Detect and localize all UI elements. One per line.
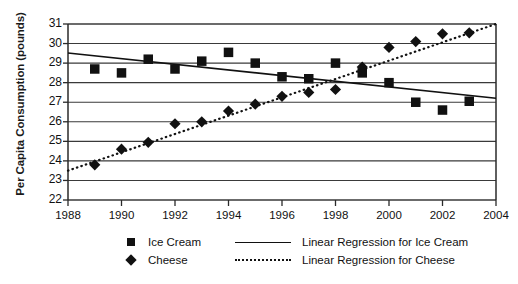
x-axis-tick-label: 2002	[420, 209, 466, 221]
legend-series-label: Ice Cream	[144, 236, 224, 248]
dotted-line-icon	[235, 259, 291, 261]
x-axis-tick-label: 2000	[366, 209, 412, 221]
x-axis-tick-label: 1998	[313, 209, 359, 221]
data-point-cheese	[143, 137, 154, 148]
data-point-ice-cream	[384, 78, 394, 88]
data-point-ice-cream	[251, 58, 261, 68]
data-point-ice-cream	[304, 74, 314, 84]
solid-line-icon	[235, 242, 291, 243]
diamond-icon	[125, 254, 136, 265]
solid-line-sample	[224, 242, 302, 243]
data-point-ice-cream	[411, 97, 421, 107]
legend-trendline-label: Linear Regression for Ice Cream	[302, 236, 468, 248]
data-point-ice-cream	[438, 105, 448, 115]
data-point-ice-cream	[331, 58, 341, 68]
data-point-ice-cream	[224, 48, 234, 58]
chart-container: Per Capita Consumption (pounds) 22232425…	[0, 0, 518, 284]
data-point-ice-cream	[197, 56, 207, 66]
square-marker	[118, 238, 144, 246]
data-point-ice-cream	[465, 96, 475, 106]
data-point-cheese	[276, 91, 287, 102]
square-icon	[127, 238, 135, 246]
data-point-ice-cream	[277, 72, 287, 82]
data-point-ice-cream	[170, 64, 180, 74]
data-point-ice-cream	[90, 64, 100, 74]
data-point-cheese	[410, 36, 421, 47]
data-point-cheese	[437, 28, 448, 39]
legend-row: Ice CreamLinear Regression for Ice Cream	[118, 236, 468, 248]
x-axis-tick-label: 1994	[206, 209, 252, 221]
diamond-marker	[118, 256, 144, 264]
x-axis-tick-label: 2004	[473, 209, 518, 221]
data-point-cheese	[330, 84, 341, 95]
data-point-cheese	[303, 87, 314, 98]
x-axis-tick-label: 1990	[99, 209, 145, 221]
x-axis-tick-label: 1996	[259, 209, 305, 221]
data-point-cheese	[169, 118, 180, 129]
dotted-line-sample	[224, 259, 302, 261]
x-axis-tick-label: 1992	[152, 209, 198, 221]
data-point-ice-cream	[144, 54, 154, 64]
legend-series-label: Cheese	[144, 254, 224, 266]
legend-row: CheeseLinear Regression for Cheese	[118, 254, 455, 266]
data-point-ice-cream	[117, 68, 127, 78]
legend-trendline-label: Linear Regression for Cheese	[302, 254, 455, 266]
data-point-cheese	[464, 27, 475, 38]
x-axis-tick-label: 1988	[45, 209, 91, 221]
